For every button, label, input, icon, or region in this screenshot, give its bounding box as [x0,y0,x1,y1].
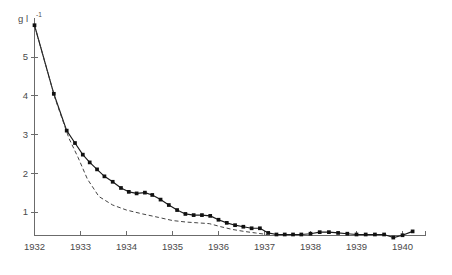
data-point-marker [103,175,107,179]
data-point-marker [159,198,163,202]
data-point-marker [411,230,415,234]
data-point-marker [119,186,123,190]
axis-group [35,18,426,236]
data-point-marker [111,180,115,184]
x-tick-label: 1932 [24,241,45,252]
data-point-marker [175,208,179,212]
y-tick-label: 5 [23,51,28,62]
data-point-marker [225,221,229,225]
data-point-marker [275,233,279,237]
data-point-marker [309,232,313,236]
data-point-marker [364,233,368,237]
series-line-solid [35,25,413,237]
series-line-dashed [35,25,267,234]
data-point-marker [241,225,245,229]
data-point-marker [95,168,99,172]
data-point-marker [184,212,188,216]
data-point-marker [127,190,131,194]
data-point-marker [81,153,85,157]
x-tick-label: 1938 [300,241,321,252]
data-point-marker [88,161,92,165]
data-point-marker [258,226,262,230]
data-point-marker [208,214,212,218]
figure-container: 12345 1932193319341935193619371938193919… [0,0,452,275]
chart-plot: 12345 1932193319341935193619371938193919… [0,0,452,275]
data-point-marker [336,231,340,235]
data-point-marker [391,236,395,240]
y-axis-unit-exponent: -1 [36,11,42,18]
data-point-marker [33,23,37,27]
data-point-marker [283,233,287,237]
x-tick-label: 1934 [116,241,137,252]
x-tick-label: 1937 [254,241,275,252]
x-tick-label: 1939 [346,241,367,252]
y-tick-label: 4 [23,90,28,101]
data-point-marker [233,223,237,227]
data-point-marker [327,230,331,234]
data-point-marker [355,233,359,237]
data-point-marker [291,233,295,237]
data-series-group [35,25,413,237]
data-point-marker [345,232,349,236]
x-tick-label: 1936 [208,241,229,252]
data-point-marker [65,129,69,133]
data-point-marker [217,218,221,222]
y-tick-label: 2 [23,168,28,179]
data-point-marker [373,233,377,237]
data-point-marker [52,92,56,96]
data-point-marker [266,231,270,235]
data-point-marker [192,213,196,217]
y-tick-label: 1 [23,206,28,217]
data-point-marker [143,191,147,195]
data-point-marker [167,203,171,207]
data-markers-group [33,23,415,239]
data-point-marker [73,141,77,145]
y-axis-label: g l -1 [18,11,42,24]
data-point-marker [318,230,322,234]
y-tick-label: 3 [23,129,28,140]
x-tick-label: 1935 [162,241,183,252]
x-tick-label: 1940 [392,241,413,252]
y-axis-unit-base: g l [18,13,28,24]
data-point-marker [150,193,154,197]
data-point-marker [135,192,139,196]
data-point-marker [250,226,254,230]
data-point-marker [299,233,303,237]
x-tick-label: 1933 [70,241,91,252]
y-axis-ticks: 12345 [23,51,38,217]
data-point-marker [401,233,405,237]
data-point-marker [200,213,204,217]
data-point-marker [382,233,386,237]
